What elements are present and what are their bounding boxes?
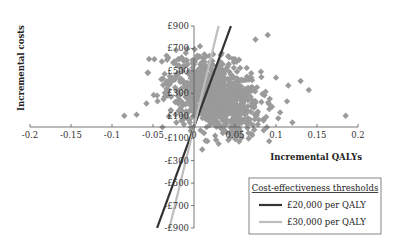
- legend-label-30000: £30,000 per QALY: [287, 217, 366, 227]
- legend-label-20000: £20,000 per QALY: [287, 200, 366, 210]
- y-tick-label: £100: [167, 111, 189, 121]
- scatter-point: [289, 119, 295, 125]
- scatter-point: [133, 111, 139, 117]
- scatter-point: [199, 146, 205, 152]
- scatter-point: [151, 56, 157, 62]
- scatter-point: [146, 56, 152, 62]
- scatter-point: [258, 69, 264, 75]
- legend-title: Cost-effectiveness thresholds: [252, 183, 379, 193]
- x-tick-label: 0.1: [269, 130, 283, 140]
- y-tick-label: £300: [167, 88, 189, 98]
- y-tick-label: £900: [167, 21, 189, 31]
- scatter-point: [277, 109, 283, 115]
- scatter-point: [273, 74, 279, 80]
- x-tick-label: 0.05: [226, 130, 245, 140]
- x-tick-label: -0.15: [60, 130, 82, 140]
- scatter-point: [159, 58, 165, 64]
- ce-plane-chart: -0.2-0.15-0.1-0.0500.050.10.150.2 £900£7…: [0, 0, 398, 249]
- scatter-point: [252, 36, 258, 42]
- scatter-point: [258, 74, 264, 80]
- scatter-point: [143, 100, 149, 106]
- y-tick-label: £700: [167, 43, 189, 53]
- legend: Cost-effectiveness thresholds £20,000 pe…: [249, 178, 381, 234]
- y-tick-label: -£900: [164, 223, 189, 233]
- scatter-point: [197, 43, 203, 49]
- scatter-point: [343, 113, 349, 119]
- scatter-point: [192, 46, 198, 52]
- x-axis-title: Incremental QALYs: [270, 152, 362, 162]
- x-tick-label: -0.05: [142, 130, 164, 140]
- y-tick-label: -£700: [164, 201, 189, 211]
- scatter-point: [258, 99, 264, 105]
- x-tick-label: -0.2: [22, 130, 38, 140]
- y-tick-label: £500: [167, 66, 189, 76]
- scatter-point: [154, 98, 160, 104]
- scatter-point: [121, 113, 127, 119]
- y-tick-label: -£300: [164, 156, 189, 166]
- y-axis-title: Incremental costs: [16, 25, 26, 111]
- x-tick-label: -0.1: [104, 130, 120, 140]
- scatter-point: [244, 65, 250, 71]
- y-tick-label: -£500: [164, 178, 189, 188]
- scatter-point: [306, 87, 312, 93]
- scatter-point: [144, 70, 150, 76]
- scatter-point: [275, 115, 281, 121]
- x-tick-label: 0.2: [351, 130, 365, 140]
- scatter-point: [284, 98, 290, 104]
- y-tick-label: -£100: [164, 133, 189, 143]
- x-tick-label: 0.15: [308, 130, 327, 140]
- scatter-point: [285, 82, 291, 88]
- scatter-point: [297, 78, 303, 84]
- scatter-point: [265, 32, 271, 38]
